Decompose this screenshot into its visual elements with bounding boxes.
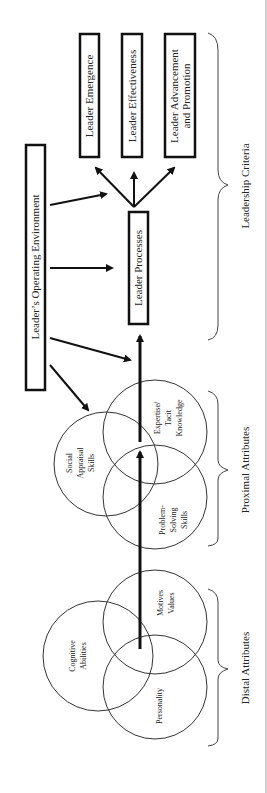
cognitive-abilities-circle [43,601,153,711]
environment-to-criteria-arrow [50,194,106,205]
leader-advancement-label-line1: Leader Advancement [168,49,180,143]
social-label-1: Social [65,452,74,473]
leader-processes-label: Leader Processes [132,230,144,306]
problem-solving-circle [103,445,207,549]
leader-effectiveness-label: Leader Effectiveness [126,50,138,142]
cognitive-label-2: Abilities [79,642,88,670]
distal-attributes-label: Distal Attributes [239,632,251,704]
cognitive-label-1: Cognitive [68,640,77,672]
processes-to-advancement-arrow [134,168,174,207]
problem-label-2: Solving [169,508,178,533]
operating-environment-label: Leader’s Operating Environment [29,194,41,339]
problem-label-3: Skills [180,511,189,529]
processes-to-emergence-arrow [96,168,134,207]
leader-advancement-label-line2: and Promotion [180,63,192,129]
personality-label: Personality [155,688,164,724]
problem-label-1: Problem- [158,505,167,535]
expertise-label-1: Expertise/ [153,401,162,434]
motives-label-2: Values [167,592,176,613]
expertise-label-2: Tacit [164,409,173,426]
proximal-attributes-brace [208,391,228,546]
leadership-criteria-label: Leadership Criteria [239,143,251,228]
expertise-label-3: Knowledge [175,399,184,436]
leadership-criteria-brace [208,33,228,340]
proximal-attributes-label: Proximal Attributes [239,427,251,513]
motives-values-circle [103,570,207,674]
leader-emergence-label: Leader Emergence [83,55,95,138]
environment-to-social-arrow [50,365,88,410]
social-label-2: Appraisal [76,447,85,479]
social-label-3: Skills [87,454,96,472]
distal-attributes-brace [208,589,228,746]
leadership-model-diagram: Leader’s Operating Environment Leader Pr… [0,0,267,793]
motives-label-1: Motives [156,590,165,616]
environment-to-flow-arrow [50,338,130,360]
page-edge-line [265,0,267,793]
